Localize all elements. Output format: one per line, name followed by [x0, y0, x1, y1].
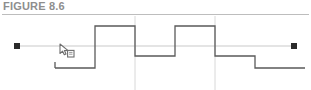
stepped-square-wave-polyline[interactable] — [55, 26, 305, 68]
construction-guide-line[interactable] — [14, 43, 297, 49]
guide-start-grip[interactable] — [14, 43, 20, 49]
figure-screenshot: FIGURE 8.6 — [0, 0, 311, 90]
drawing-canvas[interactable] — [0, 16, 311, 90]
header-divider — [2, 14, 309, 15]
waveform-path[interactable] — [55, 26, 305, 68]
guide-end-grip[interactable] — [291, 43, 297, 49]
figure-label: FIGURE 8.6 — [3, 0, 65, 13]
figure-header: FIGURE 8.6 — [0, 0, 311, 16]
canvas-vector-layer — [0, 16, 311, 90]
